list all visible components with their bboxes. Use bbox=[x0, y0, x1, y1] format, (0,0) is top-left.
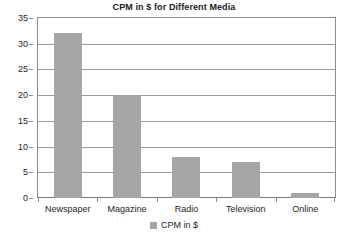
bar[interactable] bbox=[172, 157, 200, 198]
y-axis: 05101520253035 bbox=[0, 17, 33, 198]
y-axis-tick bbox=[29, 147, 33, 148]
bars-layer bbox=[38, 18, 335, 198]
x-axis-category-label: Magazine bbox=[97, 203, 156, 215]
y-axis-tick-label: 5 bbox=[23, 168, 28, 177]
bar-slot bbox=[157, 18, 216, 198]
y-axis-tick-label: 15 bbox=[18, 116, 28, 125]
x-axis-tick bbox=[97, 198, 98, 202]
y-axis-tick bbox=[29, 44, 33, 45]
y-axis-tick-label: 25 bbox=[18, 65, 28, 74]
bar-slot bbox=[97, 18, 156, 198]
y-axis-tick-label: 35 bbox=[18, 14, 28, 23]
bar-chart: CPM in $ for Different Media 05101520253… bbox=[0, 0, 348, 242]
y-axis-tick bbox=[29, 172, 33, 173]
bar-slot bbox=[38, 18, 97, 198]
y-axis-tick bbox=[29, 18, 33, 19]
chart-title: CPM in $ for Different Media bbox=[0, 2, 348, 13]
x-axis-category-label: Radio bbox=[157, 203, 216, 215]
x-axis-tick bbox=[38, 198, 39, 202]
legend-label: CPM in $ bbox=[161, 220, 198, 230]
x-axis-tick bbox=[216, 198, 217, 202]
y-axis-tick-label: 10 bbox=[18, 142, 28, 151]
y-axis-tick-label: 20 bbox=[18, 91, 28, 100]
y-axis-tick bbox=[29, 121, 33, 122]
x-axis-tick bbox=[334, 198, 335, 202]
legend-swatch-icon bbox=[150, 222, 157, 229]
x-axis-labels: NewspaperMagazineRadioTelevisionOnline bbox=[38, 203, 335, 217]
bar[interactable] bbox=[232, 162, 260, 198]
x-axis-category-label: Television bbox=[216, 203, 275, 215]
y-axis-tick bbox=[29, 95, 33, 96]
bar[interactable] bbox=[54, 33, 82, 198]
x-axis-category-label: Newspaper bbox=[38, 203, 97, 215]
x-axis-category-label: Online bbox=[276, 203, 335, 215]
y-axis-tick-label: 0 bbox=[23, 194, 28, 203]
x-axis-tick bbox=[276, 198, 277, 202]
bar-slot bbox=[216, 18, 275, 198]
chart-legend: CPM in $ bbox=[0, 220, 348, 230]
y-axis-tick bbox=[29, 69, 33, 70]
bar[interactable] bbox=[113, 95, 141, 198]
y-axis-tick-label: 30 bbox=[18, 39, 28, 48]
x-axis-tick bbox=[157, 198, 158, 202]
y-axis-tick bbox=[29, 198, 33, 199]
bar-slot bbox=[276, 18, 335, 198]
